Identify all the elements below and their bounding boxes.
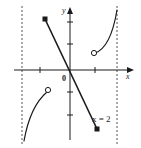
open-endpoint-marker — [45, 87, 50, 92]
y-axis-label: y — [61, 6, 66, 15]
x-axis-label: x — [125, 72, 130, 81]
vertical-asymptote-label: x = 2 — [92, 114, 111, 124]
center-line-segment — [45, 19, 97, 129]
y-axis-arrowhead — [67, 7, 73, 14]
upper-right-branch-curve — [95, 10, 117, 53]
open-endpoint-marker — [91, 50, 96, 55]
filled-endpoint-marker — [95, 127, 100, 132]
filled-endpoint-marker — [43, 17, 48, 22]
lower-left-branch-curve — [24, 92, 47, 141]
origin-label: 0 — [62, 74, 66, 83]
piecewise-function-graph: y x 0 x = 2 — [0, 0, 141, 148]
graph-canvas: y x 0 x = 2 — [0, 0, 141, 148]
